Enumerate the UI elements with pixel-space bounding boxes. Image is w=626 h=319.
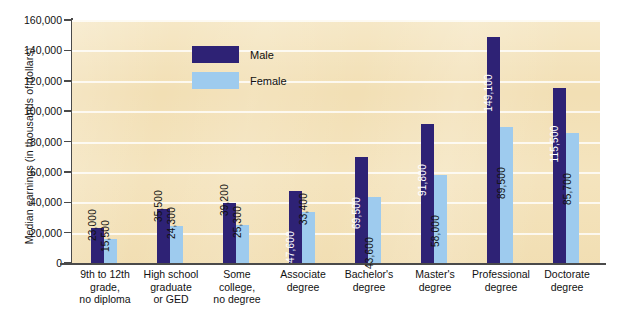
y-axis-tick xyxy=(64,110,72,112)
y-tick-label: 0 xyxy=(2,257,62,269)
legend-label-male: Male xyxy=(250,49,274,61)
gridline xyxy=(72,111,600,113)
bar-value-label: 89,500 xyxy=(496,167,507,199)
bar-value-label: 115,500 xyxy=(549,125,560,162)
bar-group: 91,80058,000 xyxy=(421,20,447,263)
y-axis-tick xyxy=(64,80,72,82)
gridline xyxy=(72,50,600,52)
bar-group: 39,20025,300 xyxy=(223,20,249,263)
plot-texture xyxy=(72,20,600,263)
bar-female: 43,600 xyxy=(368,197,381,263)
bar-group: 115,50085,700 xyxy=(553,20,579,263)
bar-female: 33,400 xyxy=(302,212,315,263)
bar-value-label: 39,200 xyxy=(219,185,230,217)
bar-female: 85,700 xyxy=(566,133,579,263)
bar-value-label: 15,500 xyxy=(100,221,111,253)
y-axis-tick xyxy=(64,262,72,264)
bar-value-label: 85,700 xyxy=(562,173,573,205)
bar-female: 25,300 xyxy=(236,225,249,263)
bar-female: 24,300 xyxy=(170,226,183,263)
y-axis-tick xyxy=(64,50,72,52)
y-tick-label: 140,000 xyxy=(2,44,62,56)
plot-area: Male Female 23,00015,50035,50024,30039,2… xyxy=(72,20,600,263)
bar-group: 23,00015,500 xyxy=(91,20,117,263)
bar-chart: Median earnings (in thousands of dollars… xyxy=(0,0,626,319)
y-tick-label: 160,000 xyxy=(2,14,62,26)
x-axis-line xyxy=(60,263,606,265)
y-axis-tick xyxy=(64,171,72,173)
bar-value-label: 35,500 xyxy=(153,190,164,222)
gridline xyxy=(72,233,600,235)
gridline xyxy=(72,81,600,83)
bar-group: 35,50024,300 xyxy=(157,20,183,263)
y-tick-label: 100,000 xyxy=(2,105,62,117)
y-axis-tick xyxy=(64,232,72,234)
bar-female: 58,000 xyxy=(434,175,447,263)
bar-group: 47,60033,400 xyxy=(289,20,315,263)
bar-group: 69,50043,600 xyxy=(355,20,381,263)
x-axis-category-label: Doctoratedegree xyxy=(528,268,606,293)
bar-female: 15,500 xyxy=(104,239,117,263)
bar-group: 149,10089,500 xyxy=(487,20,513,263)
bar-value-label: 33,400 xyxy=(298,193,309,225)
bar-value-label: 24,300 xyxy=(166,207,177,239)
bar-value-label: 69,500 xyxy=(351,198,362,230)
gridline xyxy=(72,172,600,174)
gridline xyxy=(72,142,600,144)
y-tick-label: 120,000 xyxy=(2,75,62,87)
y-tick-label: 80,000 xyxy=(2,136,62,148)
bar-value-label: 58,000 xyxy=(430,215,441,247)
bar-value-label: 25,300 xyxy=(232,206,243,238)
y-tick-label: 20,000 xyxy=(2,227,62,239)
y-axis-tick xyxy=(64,141,72,143)
legend-label-female: Female xyxy=(250,75,287,87)
gridline xyxy=(72,202,600,204)
bar-male: 149,100 xyxy=(487,37,500,263)
bar-value-label: 23,000 xyxy=(87,209,98,241)
x-axis-category-labels: 9th to 12thgrade,no diplomaHigh schoolgr… xyxy=(72,268,600,318)
y-tick-label: 40,000 xyxy=(2,196,62,208)
y-tick-label: 60,000 xyxy=(2,166,62,178)
bar-value-label: 47,600 xyxy=(285,231,296,263)
bar-value-label: 43,600 xyxy=(364,237,375,269)
bar-value-label: 91,800 xyxy=(417,164,428,196)
gridline xyxy=(72,20,600,22)
bar-female: 89,500 xyxy=(500,127,513,263)
y-axis-tick xyxy=(64,202,72,204)
y-axis-tick xyxy=(64,19,72,21)
bar-value-label: 149,100 xyxy=(483,74,494,112)
